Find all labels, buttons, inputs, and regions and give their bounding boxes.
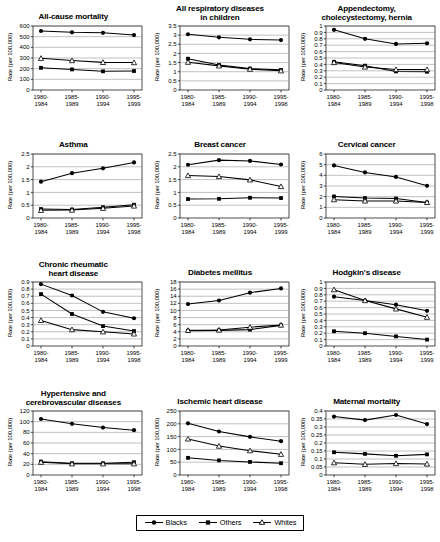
- panel-title: Asthma: [0, 128, 147, 148]
- svg-text:1985-: 1985-: [358, 350, 373, 356]
- svg-text:1994: 1994: [390, 486, 404, 492]
- svg-text:1990-: 1990-: [95, 222, 110, 228]
- svg-text:0.2: 0.2: [315, 440, 324, 446]
- svg-text:1985-: 1985-: [64, 222, 79, 228]
- svg-text:1984: 1984: [181, 357, 195, 363]
- svg-text:1995-: 1995-: [273, 222, 288, 228]
- svg-text:0.25: 0.25: [311, 432, 323, 438]
- svg-text:1985-: 1985-: [64, 479, 79, 485]
- svg-text:0: 0: [26, 343, 30, 349]
- svg-text:1995-: 1995-: [273, 94, 288, 100]
- panel-title: Hodgkin's disease: [293, 256, 440, 276]
- svg-text:0.7: 0.7: [315, 42, 324, 48]
- svg-text:3: 3: [320, 183, 324, 189]
- svg-text:1998: 1998: [274, 101, 288, 107]
- svg-text:300: 300: [20, 55, 31, 61]
- chart-panel: Breast cancer00.511.522.51980-19841985-1…: [147, 128, 294, 256]
- svg-text:6: 6: [320, 151, 324, 157]
- svg-text:0.1: 0.1: [315, 337, 324, 343]
- svg-text:0.9: 0.9: [21, 279, 30, 285]
- svg-text:0.7: 0.7: [315, 298, 324, 304]
- svg-text:0: 0: [173, 87, 177, 93]
- y-axis-label: Rate (per 100,000): [4, 282, 14, 344]
- svg-text:1: 1: [320, 279, 324, 285]
- svg-text:600: 600: [20, 23, 31, 29]
- chart-panel: Maternal mortality00.050.10.150.20.250.3…: [293, 385, 440, 514]
- panel-title: Breast cancer: [147, 128, 294, 148]
- panel-title: All respiratory diseasesin children: [147, 0, 294, 20]
- svg-text:1984: 1984: [34, 486, 48, 492]
- svg-text:1980-: 1980-: [33, 350, 48, 356]
- svg-text:0.3: 0.3: [315, 324, 324, 330]
- svg-text:14: 14: [170, 293, 177, 299]
- chart-panel: Ischemic heart disease050100150200250198…: [147, 385, 294, 514]
- svg-text:1980-: 1980-: [327, 222, 342, 228]
- plot-area: 01002003004005006001980-19841985-1989199…: [0, 20, 146, 128]
- svg-text:2: 2: [320, 194, 324, 200]
- svg-text:4: 4: [320, 172, 324, 178]
- svg-text:0: 0: [320, 343, 324, 349]
- svg-text:0: 0: [320, 215, 324, 221]
- svg-text:4: 4: [173, 329, 177, 335]
- svg-text:50: 50: [170, 459, 177, 465]
- svg-text:1980-: 1980-: [327, 94, 342, 100]
- svg-text:0.8: 0.8: [315, 36, 324, 42]
- svg-text:0.2: 0.2: [315, 330, 324, 336]
- svg-text:1990-: 1990-: [389, 479, 404, 485]
- panel-title: Hypertensive andcerebrovascular diseases: [0, 385, 147, 405]
- svg-text:1980-: 1980-: [180, 94, 195, 100]
- svg-text:1984: 1984: [34, 101, 48, 107]
- svg-text:1: 1: [320, 204, 324, 210]
- svg-text:1990-: 1990-: [389, 222, 404, 228]
- svg-text:1980-: 1980-: [33, 479, 48, 485]
- svg-text:1.5: 1.5: [168, 177, 177, 183]
- panel-title: Maternal mortality: [293, 385, 440, 405]
- svg-text:1989: 1989: [359, 101, 372, 107]
- chart-panel: Chronic rheumaticheart disease00.10.20.3…: [0, 256, 147, 385]
- legend-row: BlacksOthersWhites: [0, 515, 440, 531]
- panel-title: Chronic rheumaticheart disease: [0, 256, 147, 276]
- svg-text:1989: 1989: [212, 101, 225, 107]
- svg-text:1985-: 1985-: [211, 479, 226, 485]
- svg-text:0.5: 0.5: [21, 202, 30, 208]
- svg-text:0.8: 0.8: [315, 292, 324, 298]
- svg-text:6: 6: [173, 322, 177, 328]
- chart-panel: Hodgkin's disease00.10.20.30.40.50.60.70…: [293, 256, 440, 385]
- svg-text:0.5: 0.5: [315, 55, 324, 61]
- svg-text:1989: 1989: [212, 229, 225, 235]
- svg-text:0.6: 0.6: [21, 300, 30, 306]
- chart-panel: Appendectomy,cholecystectomy, hernia00.1…: [293, 0, 440, 128]
- plot-area: 00.10.20.30.40.50.60.70.80.911980-198419…: [293, 276, 439, 385]
- svg-text:0.1: 0.1: [315, 456, 324, 462]
- legend-item: Others: [198, 518, 242, 527]
- svg-text:0.5: 0.5: [168, 78, 177, 84]
- svg-text:1989: 1989: [212, 486, 225, 492]
- svg-text:1995-: 1995-: [420, 94, 435, 100]
- svg-text:1: 1: [173, 69, 177, 75]
- chart-legend: BlacksOthersWhites: [136, 515, 305, 531]
- svg-text:1989: 1989: [359, 357, 372, 363]
- svg-text:1984: 1984: [34, 357, 48, 363]
- svg-text:0: 0: [173, 472, 177, 478]
- svg-text:0.4: 0.4: [315, 318, 324, 324]
- svg-text:1995-: 1995-: [273, 350, 288, 356]
- svg-text:1980-: 1980-: [180, 479, 195, 485]
- chart-panel: Cervical cancer01234561980-19841985-1989…: [293, 128, 440, 256]
- svg-text:0: 0: [320, 87, 324, 93]
- svg-text:1994: 1994: [243, 229, 257, 235]
- plot-area: 0246810121416181980-19841985-19891990-19…: [147, 276, 293, 385]
- svg-text:18: 18: [170, 279, 177, 285]
- svg-text:0.9: 0.9: [315, 30, 324, 36]
- svg-text:0.6: 0.6: [315, 49, 324, 55]
- svg-text:1990-: 1990-: [242, 350, 257, 356]
- panel-title: Diabetes mellitus: [147, 256, 294, 276]
- svg-text:1985-: 1985-: [211, 350, 226, 356]
- panel-title: All-cause mortality: [0, 0, 147, 20]
- y-axis-label: Rate (per 100,000): [297, 411, 307, 473]
- svg-text:0: 0: [173, 215, 177, 221]
- panel-grid: All-cause mortality010020030040050060019…: [0, 0, 440, 514]
- svg-text:10: 10: [170, 308, 177, 314]
- svg-text:40: 40: [23, 451, 30, 457]
- svg-text:1999: 1999: [421, 357, 434, 363]
- svg-text:0.3: 0.3: [315, 424, 324, 430]
